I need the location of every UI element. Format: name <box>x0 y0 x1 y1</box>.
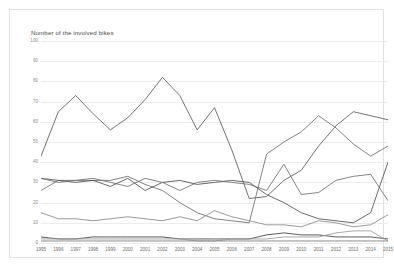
x-axis-tick-label: 2006 <box>227 247 237 252</box>
x-axis-tick-label: 1996 <box>53 247 63 252</box>
y-axis-tick-label: 80 <box>33 79 38 84</box>
x-axis-tick-label: 2012 <box>331 247 341 252</box>
x-axis-tick-label: 2002 <box>157 247 167 252</box>
series-line <box>41 162 388 223</box>
x-axis-tick-label: 2011 <box>314 247 324 252</box>
y-axis-tick-label: 100 <box>30 38 38 43</box>
x-axis-tick-label: 2010 <box>296 247 306 252</box>
y-axis-tick-label: 30 <box>33 180 38 185</box>
x-axis-tick-label: 2015 <box>383 247 393 252</box>
y-axis-tick-label: 70 <box>33 99 38 104</box>
x-axis-tick-label: 2008 <box>261 247 271 252</box>
x-axis-tick-label: 2005 <box>209 247 219 252</box>
y-axis-tick-label: 50 <box>33 139 38 144</box>
x-axis-tick-label: 2007 <box>244 247 254 252</box>
y-axis-tick-label: 0 <box>35 240 38 245</box>
series-line <box>41 116 388 223</box>
chart-title: Number of the involved bikes <box>31 29 114 36</box>
x-axis-tick-label: 1997 <box>71 247 81 252</box>
x-axis-tick-label: 2000 <box>123 247 133 252</box>
x-axis-tick-label: 2003 <box>175 247 185 252</box>
y-axis-tick-label: 10 <box>33 220 38 225</box>
x-axis-tick-label: 1998 <box>88 247 98 252</box>
plot-area: 0102030405060708090100 19951996199719981… <box>41 41 388 243</box>
x-axis-tick-label: 1999 <box>105 247 115 252</box>
x-axis-tick-label: 2004 <box>192 247 202 252</box>
series-line <box>41 233 388 239</box>
x-axis-tick-label: 2013 <box>348 247 358 252</box>
gridline <box>41 243 388 244</box>
y-axis-tick-label: 90 <box>33 59 38 64</box>
chart-frame: Number of the involved bikes 01020304050… <box>9 9 384 258</box>
series-lines <box>41 41 388 243</box>
y-axis-tick-label: 40 <box>33 160 38 165</box>
x-axis-tick-label: 2009 <box>279 247 289 252</box>
x-axis-tick-label: 2001 <box>140 247 150 252</box>
y-axis-tick-label: 60 <box>33 119 38 124</box>
y-axis-tick-label: 20 <box>33 200 38 205</box>
x-axis-tick-label: 1995 <box>36 247 46 252</box>
series-line <box>41 231 388 241</box>
x-axis-tick-label: 2014 <box>366 247 376 252</box>
